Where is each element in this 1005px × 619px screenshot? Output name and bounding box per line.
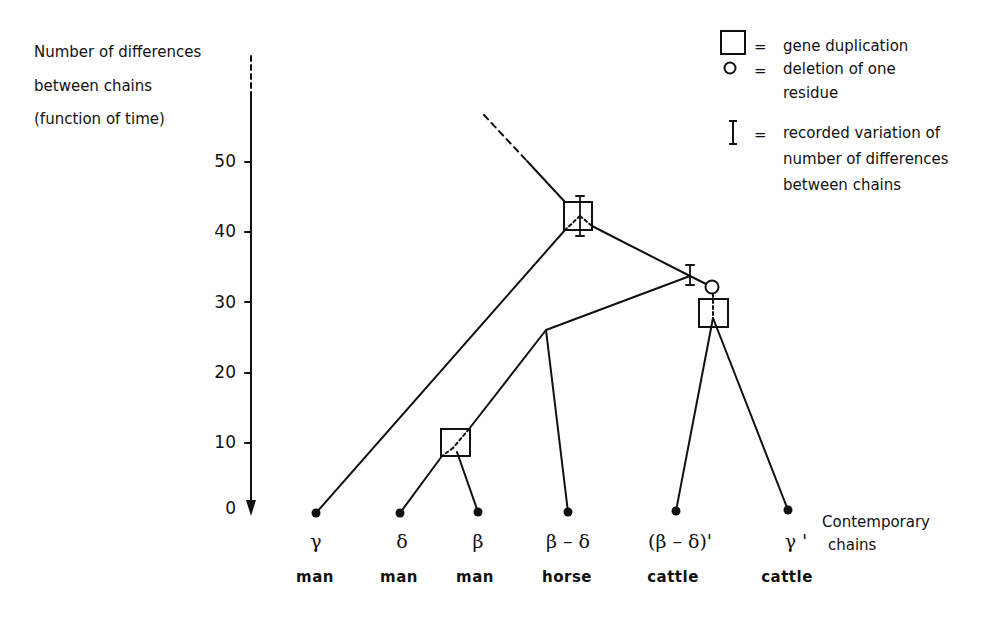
legend-eq-3: = [754,128,767,143]
leaf-dot-delta-man [396,509,405,518]
x-axis-label-line-1: Contemporary [822,515,930,530]
leaf-chain-gamma: γ [310,532,321,551]
leaf-chain-beta: β [473,532,484,551]
legend-eq-2: = [754,64,767,79]
branch-gamma-prime-cattle [713,318,788,510]
leaf-species-horse: horse [542,570,592,585]
legend-gene-duplication: gene duplication [783,39,908,54]
leaf-dot-beta-delta-prime-cattle [672,507,681,516]
leaf-dot-beta-delta-horse [564,508,573,517]
leaf-species-cattle-2: cattle [761,570,813,585]
legend-variation-line-1: recorded variation of [783,126,940,141]
y-axis-arrow-icon [246,500,256,516]
legend-deletion-line-2: residue [783,86,838,101]
branch-delta-man [400,456,442,513]
legend-eq-1: = [754,40,767,55]
leaf-species-cattle-1: cattle [647,570,699,585]
leaf-species-man-3: man [456,570,494,585]
legend-variation-line-3: between chains [783,178,901,193]
leaf-dot-gamma-prime-cattle [784,506,793,515]
leaf-dot-beta-man [474,508,483,517]
ancestral-dashed-branch [484,115,527,161]
leaf-chain-beta-delta-prime: (β – δ)' [648,532,712,551]
legend-circle-icon [725,63,736,74]
branch-beta-man [457,452,478,512]
legend-square-icon [721,31,745,54]
leaf-dot-gamma-man [312,509,321,518]
legend-deletion-line-1: deletion of one [783,62,896,77]
branch-to-man-duplication [469,330,546,429]
branch-to-beta-delta-ancestor [592,226,690,276]
leaf-chain-delta: δ [396,532,407,551]
leaf-species-man-2: man [380,570,418,585]
leaf-species-man-1: man [296,570,334,585]
legend-variation-line-2: number of differences [783,152,949,167]
branch-to-horse-man-node [546,276,690,330]
branch-gamma-man [316,230,565,513]
deletion-circle [706,281,719,294]
x-axis-label-line-2: chains [828,538,876,553]
branch-beta-delta-prime-cattle [676,318,713,511]
ancestral-branch [527,161,565,202]
leaf-chain-gamma-prime: γ ' [785,532,808,551]
leaf-chain-beta-delta: β – δ [546,532,590,551]
branch-beta-delta-horse [546,330,568,512]
